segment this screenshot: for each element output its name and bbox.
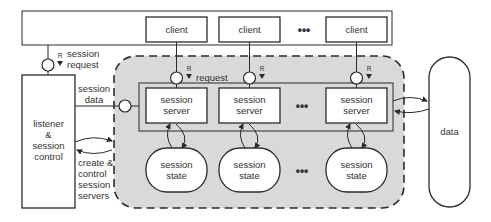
server-label-2: server (163, 105, 189, 116)
session-request-label-2: request (67, 59, 99, 70)
request-label: request (196, 72, 228, 83)
session-server-1: session server (146, 88, 207, 123)
listener-label-1: listener (33, 118, 64, 129)
session-server-3: session server (326, 88, 387, 123)
state-label-1: session (233, 159, 265, 170)
client-label: client (165, 24, 188, 35)
request-role-marker: R (187, 65, 192, 72)
session-server-2: session server (219, 88, 280, 123)
session-data-label-1: session (78, 83, 110, 94)
state-label-1: session (340, 159, 372, 170)
data-store: data (429, 57, 470, 207)
client-label: client (345, 24, 368, 35)
create-control-label-2: control (78, 168, 107, 179)
client-box-2: client (219, 17, 280, 42)
session-state-2: session state (219, 148, 280, 192)
client-box-1: client (146, 17, 207, 42)
create-control-label-1: create & (78, 157, 114, 168)
session-request-port (42, 59, 54, 71)
client-label: client (238, 24, 261, 35)
server-label-2: server (236, 105, 262, 116)
state-label-2: state (166, 170, 187, 181)
request-role-marker: R (367, 65, 372, 72)
listener-label-4: control (34, 151, 63, 162)
listener-box: listener & session control (22, 75, 75, 208)
client-box-3: client (326, 17, 387, 42)
state-label-2: state (346, 170, 367, 181)
session-state-1: session state (146, 148, 207, 192)
session-request-label-1: session (67, 48, 99, 59)
create-control-label-4: servers (78, 190, 109, 201)
create-control-arrow-out (75, 138, 112, 142)
create-control-arrow-in (77, 150, 112, 154)
create-control-label-3: session (78, 179, 110, 190)
server-label-2: server (343, 105, 369, 116)
listener-label-2: & (45, 129, 52, 140)
listener-label-3: session (32, 140, 64, 151)
data-label: data (440, 126, 459, 137)
state-label-2: state (239, 170, 260, 181)
state-label-1: session (160, 159, 192, 170)
server-label-1: session (233, 94, 265, 105)
session-data-label-2: data (85, 94, 104, 105)
session-request-role-marker: R (58, 52, 63, 59)
server-label-1: session (160, 94, 192, 105)
server-label-1: session (340, 94, 372, 105)
session-data-port (119, 100, 131, 112)
servers-ellipsis: ••• (296, 99, 309, 113)
architecture-diagram: client client ••• client R session reque… (0, 0, 491, 222)
session-request-direction-icon (57, 61, 63, 66)
clients-ellipsis: ••• (298, 23, 311, 37)
states-ellipsis: ••• (296, 164, 309, 178)
request-role-marker: R (260, 65, 265, 72)
session-state-3: session state (326, 148, 387, 192)
